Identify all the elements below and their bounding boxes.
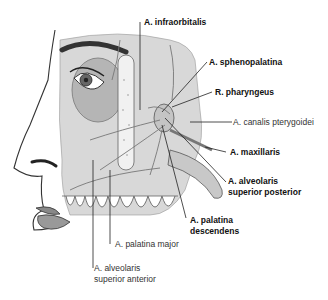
label-a-canalis-pterygoidei: A. canalis pterygoidei [233, 117, 314, 127]
label-a-sphenopalatina: A. sphenopalatina [209, 57, 282, 67]
label-a-palatina-descendens-line1: A. palatina [190, 215, 233, 225]
label-a-palatina-descendens-line2: descendens [190, 226, 239, 236]
anatomy-diagram: A. infraorbitalis A. sphenopalatina R. p… [0, 0, 328, 300]
label-a-palatina-major: A. palatina major [115, 239, 179, 249]
label-a-infraorbitalis: A. infraorbitalis [144, 17, 206, 27]
label-a-alveolaris-superior-anterior-line2: superior anterior [94, 274, 156, 284]
label-a-maxillaris: A. maxillaris [230, 147, 280, 157]
label-a-alveolaris-superior-posterior-line2: superior posterior [228, 187, 301, 197]
label-a-alveolaris-superior-posterior-line1: A. alveolaris [228, 176, 278, 186]
label-a-alveolaris-superior-anterior-line1: A. alveolaris [94, 263, 140, 273]
label-r-pharyngeus: R. pharyngeus [215, 87, 274, 97]
